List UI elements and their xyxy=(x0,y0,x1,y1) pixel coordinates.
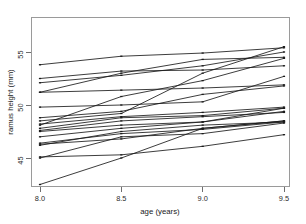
y-tick-label: 55 xyxy=(16,50,25,58)
x-axis-title: age (years) xyxy=(140,207,180,216)
ramus-height-spaghetti-chart: 8.08.59.09.5 455055 age (years) ramus he… xyxy=(0,0,306,224)
x-tick-label: 8.5 xyxy=(116,194,126,203)
y-axis-ticks: 455055 xyxy=(16,50,31,164)
x-tick-label: 9.5 xyxy=(279,194,289,203)
y-tick-label: 45 xyxy=(16,156,25,164)
x-axis-ticks: 8.08.59.09.5 xyxy=(35,187,289,203)
plot-frame xyxy=(32,18,290,187)
x-tick-label: 8.0 xyxy=(35,194,45,203)
y-tick-label: 50 xyxy=(16,103,25,111)
y-axis-title: ramus height (mm) xyxy=(6,69,15,135)
x-tick-label: 9.0 xyxy=(198,194,208,203)
